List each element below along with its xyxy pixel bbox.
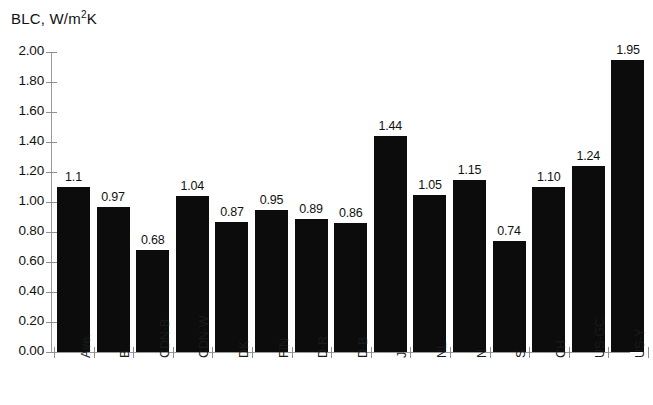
x-axis-label: DK <box>237 341 251 358</box>
chart-title-tail: K <box>87 10 97 27</box>
x-axis-label: D-B <box>356 337 370 358</box>
y-axis-tick <box>46 322 57 323</box>
bar <box>611 60 644 353</box>
bar <box>453 180 486 353</box>
y-axis-tick <box>46 262 57 263</box>
x-axis-label: J <box>395 352 409 358</box>
bar-value-label: 1.24 <box>562 149 615 163</box>
y-axis-tick-label: 0.20 <box>2 313 44 328</box>
x-axis-tick <box>608 347 609 358</box>
bar <box>295 219 328 353</box>
x-axis-tick <box>133 347 134 358</box>
x-axis-label: US-Y <box>633 329 647 358</box>
bar-value-label: 0.74 <box>483 224 536 238</box>
x-axis-tick <box>94 347 95 358</box>
x-axis-label: Ave. <box>79 334 93 358</box>
chart-title: BLC, W/m2K <box>11 10 97 27</box>
y-axis-tick-label: 1.00 <box>2 193 44 208</box>
x-axis-tick <box>54 347 55 358</box>
x-axis-label: FIN <box>277 338 291 358</box>
x-axis-tick <box>490 347 491 358</box>
x-axis-tick <box>212 347 213 358</box>
y-axis-tick-label: 1.40 <box>2 133 44 148</box>
bar-value-label: 0.87 <box>205 205 258 219</box>
x-axis-label: CDN-W <box>197 315 211 358</box>
bar-value-label: 1.44 <box>364 119 417 133</box>
y-axis-tick <box>46 202 57 203</box>
bar-value-label: 1.04 <box>166 179 219 193</box>
y-axis-tick <box>46 82 57 83</box>
y-axis-tick <box>46 142 57 143</box>
y-axis-tick <box>46 292 57 293</box>
y-axis-tick-label: 2.00 <box>2 43 44 58</box>
bar <box>57 187 90 352</box>
bar-value-label: 1.1 <box>47 170 100 184</box>
chart-title-main: BLC, W/m <box>11 10 81 27</box>
x-axis-tick <box>252 347 253 358</box>
y-axis-tick-label: 0.40 <box>2 283 44 298</box>
x-axis-label: US-GC <box>593 318 607 358</box>
bar-value-label: 1.10 <box>522 170 575 184</box>
bar <box>334 223 367 352</box>
bar <box>255 210 288 353</box>
x-axis-label: D-R <box>316 336 330 358</box>
y-axis-tick-label: 0.80 <box>2 223 44 238</box>
y-axis-tick-label: 1.80 <box>2 73 44 88</box>
bar <box>97 207 130 353</box>
bar <box>215 222 248 353</box>
x-axis-tick <box>450 347 451 358</box>
bar <box>413 195 446 353</box>
x-axis-tick <box>371 347 372 358</box>
y-axis-tick <box>46 232 57 233</box>
bar-value-label: 0.86 <box>324 206 377 220</box>
x-axis-label: N <box>475 349 489 358</box>
y-axis-tick <box>46 52 57 53</box>
x-axis-tick <box>173 347 174 358</box>
x-axis-tick <box>410 347 411 358</box>
y-axis-tick-label: 0.60 <box>2 253 44 268</box>
y-axis-tick-label: 1.20 <box>2 163 44 178</box>
y-axis-tick <box>46 112 57 113</box>
bar <box>374 136 407 352</box>
x-axis-tick <box>292 347 293 358</box>
x-axis-tick <box>331 347 332 358</box>
x-axis-tick <box>569 347 570 358</box>
bar-value-label: 0.68 <box>126 233 179 247</box>
y-axis-tick <box>46 352 57 353</box>
bar-value-label: 0.97 <box>87 190 140 204</box>
bar <box>493 241 526 352</box>
bar <box>532 187 565 352</box>
x-axis-label: CH <box>554 340 568 358</box>
x-axis-tick <box>529 347 530 358</box>
bar-value-label: 1.95 <box>601 43 653 57</box>
x-axis-tick <box>648 347 649 358</box>
x-axis-label: S <box>514 350 528 358</box>
y-axis-tick-label: 1.60 <box>2 103 44 118</box>
bar-value-label: 1.05 <box>403 178 456 192</box>
x-axis-label: CDN-B <box>158 319 172 358</box>
x-axis-label: NL <box>435 342 449 358</box>
y-axis-tick-label: 0.00 <box>2 343 44 358</box>
x-axis-label: B <box>118 350 132 358</box>
bar-value-label: 1.15 <box>443 163 496 177</box>
